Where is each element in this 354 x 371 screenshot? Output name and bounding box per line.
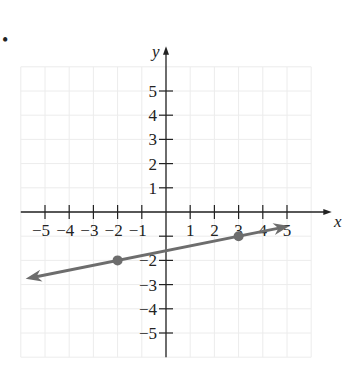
x-tick-label: −4: [56, 221, 75, 240]
x-axis-arrow-icon: [323, 209, 331, 215]
x-axis-label: x: [333, 212, 342, 231]
y-tick-label: −5: [139, 324, 157, 343]
x-tick-label: 2: [210, 221, 219, 240]
x-tick-label: 1: [186, 221, 195, 240]
y-tick-label: −3: [139, 276, 157, 295]
bullet-marker: •: [2, 30, 8, 50]
x-tick-label: −1: [129, 221, 147, 240]
x-tick-label: 5: [283, 221, 292, 240]
coordinate-plane: •xy−5−4−3−2−11234512345−5−4−3−2: [0, 0, 354, 371]
x-tick-label: −5: [32, 221, 50, 240]
data-point: [234, 231, 244, 241]
y-tick-label: 3: [149, 130, 158, 149]
y-tick-label: 5: [149, 82, 158, 101]
y-axis-arrow-icon: [163, 46, 169, 54]
x-tick-label: −3: [80, 221, 98, 240]
x-tick-label: −2: [105, 221, 123, 240]
data-point: [113, 255, 123, 265]
y-tick-label: 1: [149, 179, 158, 198]
y-tick-label: −4: [139, 300, 158, 319]
y-tick-label: 2: [149, 155, 158, 174]
y-tick-label: 4: [149, 106, 158, 125]
y-axis-label: y: [150, 42, 160, 61]
